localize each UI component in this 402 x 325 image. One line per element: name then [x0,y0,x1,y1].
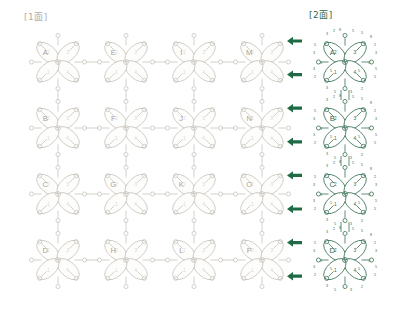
picot-loop [165,60,169,64]
stitch-count: 8 [339,28,341,32]
picot-loop [343,218,347,222]
petal-number-3: 3 [270,49,273,55]
motif[interactable]: 2341E [97,33,154,90]
stitch-count: 3 [313,183,315,187]
stitch-count: 5 [314,109,316,113]
picot-loop [192,231,196,235]
picot-loop [124,152,128,156]
stitch-count: 3 [375,249,377,253]
arrow-left-icon [287,70,302,78]
stitch-count: 5 [330,135,332,139]
picot-loop [233,258,237,262]
motif[interactable]: 2341G [97,165,154,222]
stitch-count: 5 [361,163,363,167]
stitch-count: 2 [333,29,335,33]
petal-number-1: 1 [115,267,118,273]
picot-loop [218,126,222,130]
stitch-count: 3 [368,127,370,131]
picot-loop [343,165,347,169]
picot-loop [29,126,33,130]
motif[interactable]: 2341B [316,99,373,156]
stitch-count: 8 [370,35,372,39]
petal-number-4: 4 [353,70,356,75]
motif-label-C: C [42,180,48,189]
picot-loop [260,86,264,90]
motif[interactable]: 2341J [165,99,222,156]
motif[interactable]: 2341F [97,99,154,156]
right-motif-grid: 2341A32855823533553353255232341B32855823… [313,28,377,292]
motif[interactable]: 2341K [165,165,222,222]
picot-loop [56,99,60,103]
motif[interactable]: 2341M [233,33,290,90]
arrow-left-icon [287,104,302,112]
petal-number-1: 1 [183,135,186,141]
picot-loop [233,60,237,64]
picot-loop [343,284,347,288]
picot-loop [369,126,373,130]
motif-label-B: B [330,114,335,123]
stitch-count: 8 [370,233,372,237]
picot-loop [192,152,196,156]
picot-loop [56,152,60,156]
petal-number-1: 1 [251,267,254,273]
stitch-count: 3 [350,90,352,94]
petal-number-3: 3 [202,181,205,187]
picot-loop [286,192,290,196]
stitch-count: 3 [313,249,315,253]
picot-loop [29,192,33,196]
stitch-count: 5 [361,229,363,233]
stitch-count: 5 [330,201,332,205]
motif[interactable]: 2341D [29,231,86,288]
picot-loop [343,86,347,90]
picot-loop [260,284,264,288]
stitch-count: 5 [361,97,363,101]
motif[interactable]: 2341C [29,165,86,222]
motif[interactable]: 2341H [97,231,154,288]
motif[interactable]: 2341A [316,33,373,90]
motif-label-O: O [246,180,252,189]
stitch-count: 2 [361,219,363,223]
stitch-count: 5 [314,241,316,245]
motif[interactable]: 2341O [233,165,290,222]
motif[interactable]: 2341D [316,231,373,288]
petal-number-4: 4 [66,267,69,273]
motif[interactable]: 2341P [233,231,290,288]
motif[interactable]: 2341A [29,33,86,90]
picot-loop [192,33,196,37]
stitch-count: 2 [314,75,316,79]
picot-loop [192,165,196,169]
motif[interactable]: 2341L [165,231,222,288]
petal-number-3: 3 [134,247,137,253]
petal-number-4: 4 [134,69,137,75]
petal-number-3: 3 [66,49,69,55]
petal-number-3: 3 [202,115,205,121]
petal-number-1: 1 [251,69,254,75]
stitch-count: 5 [358,135,360,139]
picot-loop [82,60,86,64]
motif[interactable]: 2341N [233,99,290,156]
stitch-count: 5 [330,267,332,271]
petal-number-4: 4 [66,69,69,75]
picot-loop [97,60,101,64]
petal-number-1: 1 [183,69,186,75]
petal-number-1: 1 [47,69,50,75]
picot-loop [369,192,373,196]
arrow-left-icon [287,37,302,45]
picot-loop [150,126,154,130]
stitch-count: 5 [375,265,377,269]
motif[interactable]: 2341I [165,33,222,90]
stitch-count: 3 [313,117,315,121]
motif[interactable]: 2341B [29,99,86,156]
petal-number-1: 1 [251,135,254,141]
picot-loop [56,33,60,37]
picot-loop [260,99,264,103]
picot-loop [56,284,60,288]
stitch-count: 5 [375,67,377,71]
stitch-count: 3 [313,67,315,71]
stitch-count: 8 [370,167,372,171]
petal-number-1: 1 [47,267,50,273]
petal-number-1: 1 [183,267,186,273]
motif-label-I: I [180,48,182,57]
stitch-count: 3 [375,183,377,187]
motif[interactable]: 2341C [316,165,373,222]
